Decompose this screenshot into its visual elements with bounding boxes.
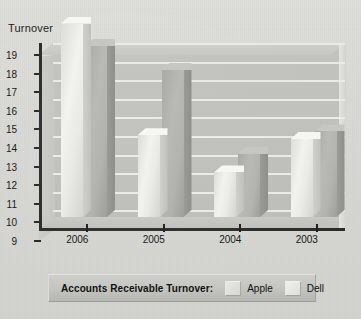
bar-side-face — [313, 139, 321, 217]
x-axis-tick — [86, 224, 88, 232]
y-axis-tick-label: 19 — [6, 50, 17, 61]
bar-top-face — [162, 63, 192, 70]
y-axis-tick-label: 18 — [6, 68, 17, 79]
x-axis-tick — [316, 224, 318, 232]
chart-root: Turnover 191817161514131211109 200620052… — [0, 0, 361, 319]
y-axis-tick-label: 12 — [6, 180, 17, 191]
y-axis-tick-label: 11 — [7, 198, 17, 209]
bar-side-face — [160, 135, 168, 217]
y-axis: 191817161514131211109 — [0, 43, 39, 243]
x-axis-tick-label: 2006 — [66, 234, 88, 245]
bar-front-face — [291, 139, 313, 217]
x-axis-tick-label: 2004 — [219, 234, 241, 245]
y-axis-tick-label: 17 — [6, 87, 17, 98]
bar-front-face — [138, 135, 160, 217]
bar-series-group — [39, 43, 345, 231]
bar-side-face — [236, 172, 244, 217]
bar-apple-2005 — [138, 135, 160, 217]
y-axis-tick-label: 9 — [11, 236, 17, 247]
x-axis-tick — [163, 224, 165, 232]
chart-legend: Accounts Receivable Turnover: Apple Dell — [48, 274, 316, 302]
legend-label-dell: Dell — [307, 283, 324, 294]
legend-swatch-apple — [225, 281, 241, 296]
bar-top-face — [214, 165, 244, 172]
legend-item-apple[interactable]: Apple — [225, 281, 273, 296]
y-axis-tick-label: 15 — [6, 124, 17, 135]
legend-title: Accounts Receivable Turnover: — [61, 283, 213, 294]
x-axis-tick-label: 2003 — [296, 234, 318, 245]
bar-apple-2006 — [61, 24, 83, 217]
legend-label-apple: Apple — [247, 283, 273, 294]
legend-swatch-dell — [285, 281, 301, 296]
bar-top-face — [61, 17, 91, 24]
legend-item-dell[interactable]: Dell — [285, 281, 324, 296]
bar-side-face — [337, 131, 345, 217]
bar-top-face — [291, 132, 321, 139]
bar-top-face — [315, 124, 345, 131]
y-axis-tick-label: 10 — [6, 217, 17, 228]
x-axis-tick — [239, 224, 241, 232]
bar-top-face — [238, 147, 268, 154]
bar-side-face — [83, 24, 91, 217]
y-axis-tick-label: 16 — [6, 105, 17, 116]
y-axis-title: Turnover — [8, 22, 53, 34]
y-axis-tick-label: 13 — [6, 161, 17, 172]
bar-front-face — [61, 24, 83, 217]
bar-apple-2003 — [291, 139, 313, 217]
y-axis-tick — [34, 240, 41, 242]
bar-top-face — [138, 128, 168, 135]
bar-front-face — [214, 172, 236, 217]
y-axis-tick-label: 14 — [6, 143, 17, 154]
bar-side-face — [184, 70, 192, 217]
bar-side-face — [260, 154, 268, 217]
x-axis-spine — [39, 228, 345, 231]
bar-side-face — [107, 46, 115, 217]
x-axis-tick-label: 2005 — [143, 234, 165, 245]
bar-apple-2004 — [214, 172, 236, 217]
